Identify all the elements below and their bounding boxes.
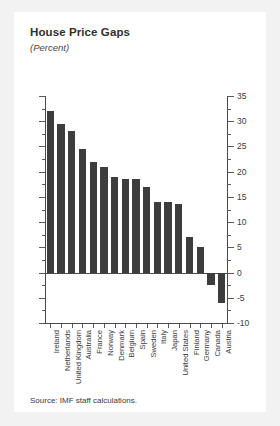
y-tick-label: 35 xyxy=(237,92,246,101)
y-tick-major xyxy=(228,146,234,147)
source-note: Source: IMF staff calculations. xyxy=(30,396,137,405)
bar xyxy=(186,237,193,272)
x-tick xyxy=(61,324,62,328)
y-tick-label: 0 xyxy=(237,269,242,278)
x-tick-label: Austria xyxy=(225,330,233,354)
page-title: House Price Gaps xyxy=(30,26,130,38)
bar-chart-plot: 35302520151050-5-10 IrelandNetherlandsUn… xyxy=(31,84,253,312)
y-tick-label: 20 xyxy=(237,168,246,177)
y-tick-minor xyxy=(228,134,231,135)
x-tick xyxy=(147,324,148,328)
y-tick-minor xyxy=(228,235,231,236)
x-tick-label: Japan xyxy=(171,330,179,351)
bar xyxy=(218,273,225,303)
x-tick xyxy=(136,324,137,328)
y-tick-label: 15 xyxy=(237,193,246,202)
x-tick xyxy=(211,324,212,328)
x-tick-label: France xyxy=(96,330,104,354)
x-tick-label: Canada xyxy=(214,330,222,357)
x-tick xyxy=(222,324,223,328)
x-tick-label: Belgium xyxy=(128,330,136,357)
x-tick xyxy=(157,324,158,328)
bar xyxy=(47,111,54,272)
y-tick-label: -10 xyxy=(237,319,249,328)
bar xyxy=(197,247,204,272)
y-tick-minor xyxy=(228,159,231,160)
chart-card: House Price Gaps (Percent) 3530252015105… xyxy=(14,12,266,412)
bar xyxy=(175,204,182,272)
x-tick-label: Norway xyxy=(107,330,115,356)
x-tick-label: Spain xyxy=(139,330,147,349)
y-tick-major xyxy=(228,222,234,223)
y-tick-minor xyxy=(228,285,231,286)
x-tick xyxy=(200,324,201,328)
x-tick-label: Australia xyxy=(85,330,93,360)
y-tick-minor xyxy=(228,260,231,261)
y-tick-minor xyxy=(228,184,231,185)
x-tick-label: United States xyxy=(182,330,190,376)
bar xyxy=(57,124,64,273)
x-tick xyxy=(125,324,126,328)
y-tick-minor xyxy=(228,210,231,211)
x-tick-label: Finland xyxy=(193,330,201,355)
y-tick-major xyxy=(228,298,234,299)
x-tick xyxy=(50,324,51,328)
y-tick-major xyxy=(228,273,234,274)
x-tick xyxy=(93,324,94,328)
x-tick xyxy=(190,324,191,328)
x-tick-label: Sweden xyxy=(150,330,158,357)
y-tick-major xyxy=(228,197,234,198)
x-tick xyxy=(72,324,73,328)
x-tick xyxy=(168,324,169,328)
x-tick-label: Ireland xyxy=(53,330,61,353)
x-tick-label: Italy xyxy=(160,330,168,344)
y-tick-major xyxy=(228,121,234,122)
y-tick-minor xyxy=(228,310,231,311)
y-tick-major xyxy=(228,96,234,97)
bar xyxy=(79,149,86,273)
y-tick-label: -5 xyxy=(237,294,245,303)
y-tick-major xyxy=(228,172,234,173)
y-tick-label: 10 xyxy=(237,218,246,227)
bar xyxy=(68,131,75,272)
y-tick-major xyxy=(228,247,234,248)
x-tick xyxy=(115,324,116,328)
x-tick-label: Netherlands xyxy=(64,330,72,371)
bar xyxy=(100,167,107,273)
bars-container xyxy=(45,96,227,324)
y-tick-major xyxy=(228,323,234,324)
chart-subtitle: (Percent) xyxy=(30,42,69,53)
y-tick-label: 5 xyxy=(237,243,242,252)
x-tick-label: Denmark xyxy=(118,330,126,361)
bar xyxy=(154,202,161,273)
y-tick-minor xyxy=(228,109,231,110)
x-tick xyxy=(82,324,83,328)
x-tick-label: Germany xyxy=(203,330,211,361)
bar xyxy=(122,179,129,272)
bar xyxy=(111,177,118,273)
bar xyxy=(143,187,150,273)
x-tick-label: United Kingdom xyxy=(75,330,83,384)
x-tick xyxy=(104,324,105,328)
y-tick-label: 30 xyxy=(237,117,246,126)
y-tick-label: 25 xyxy=(237,142,246,151)
x-tick xyxy=(179,324,180,328)
bar xyxy=(164,202,171,273)
bar xyxy=(207,273,214,286)
bar xyxy=(90,162,97,273)
bar xyxy=(132,179,139,272)
